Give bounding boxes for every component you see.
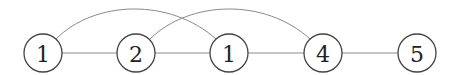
svg-text:1: 1 xyxy=(222,42,236,67)
svg-text:2: 2 xyxy=(129,42,143,67)
svg-text:1: 1 xyxy=(36,42,50,67)
node-5: 5 xyxy=(398,34,436,72)
graph-diagram: 1 2 1 4 5 xyxy=(0,0,463,75)
node-1: 1 xyxy=(24,34,62,72)
svg-text:5: 5 xyxy=(410,42,424,67)
node-3: 1 xyxy=(210,34,248,72)
svg-text:4: 4 xyxy=(316,42,330,67)
node-4: 4 xyxy=(304,34,342,72)
node-2: 2 xyxy=(117,34,155,72)
